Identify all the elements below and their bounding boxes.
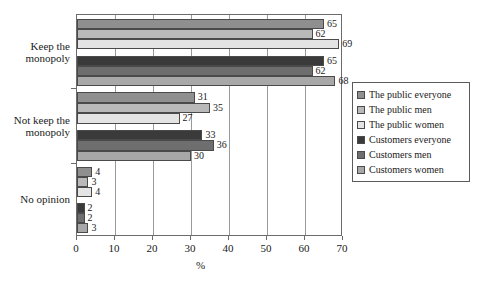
bar-chart: 656269656268313527333630434223 Keep the … — [0, 0, 482, 282]
category-label: Not keep the monopoly — [0, 114, 70, 138]
legend-swatch-icon — [357, 91, 365, 99]
bar-row: 33 — [77, 130, 341, 141]
bar-row: 68 — [77, 76, 341, 86]
bar — [77, 167, 92, 177]
bar — [77, 213, 85, 223]
bar — [77, 66, 313, 76]
bar-value-label: 69 — [340, 39, 352, 49]
bar-row: 36 — [77, 140, 341, 151]
bar-group: 434223 — [77, 164, 341, 236]
bar-value-label: 3 — [89, 223, 96, 233]
bar — [77, 39, 339, 49]
x-tick — [114, 236, 115, 240]
bar-row: 35 — [77, 103, 341, 114]
bar-value-label: 31 — [196, 92, 208, 102]
bar-row: 65 — [77, 56, 341, 66]
bar-row: 62 — [77, 29, 341, 39]
bar — [77, 92, 195, 103]
bar-row: 27 — [77, 113, 341, 124]
x-tick — [342, 236, 343, 240]
bar-value-label: 30 — [192, 151, 204, 161]
category-label: No opinion — [0, 193, 70, 205]
bar — [77, 76, 335, 86]
x-tick — [228, 236, 229, 240]
legend-label: The public women — [369, 119, 444, 130]
legend-label: Customers men — [369, 149, 432, 160]
bar-value-label: 36 — [215, 140, 227, 150]
bar-value-label: 4 — [93, 187, 100, 197]
bar-row: 2 — [77, 203, 341, 213]
bar — [77, 187, 92, 197]
bar — [77, 113, 180, 124]
bar — [77, 130, 202, 141]
legend-swatch-icon — [357, 121, 365, 129]
x-tick-label: 40 — [213, 242, 243, 254]
x-tick — [304, 236, 305, 240]
category-tick — [71, 163, 76, 164]
x-tick — [152, 236, 153, 240]
x-tick — [190, 236, 191, 240]
x-tick-label: 30 — [175, 242, 205, 254]
bar-row: 3 — [77, 177, 341, 187]
legend: The public everyoneThe public menThe pub… — [352, 82, 470, 182]
legend-swatch-icon — [357, 106, 365, 114]
bar — [77, 203, 85, 213]
bar-row: 30 — [77, 151, 341, 162]
bar — [77, 19, 324, 29]
bar-value-label: 33 — [203, 130, 215, 140]
legend-swatch-icon — [357, 151, 365, 159]
bar — [77, 56, 324, 66]
plot-area: 656269656268313527333630434223 — [76, 14, 342, 236]
bar — [77, 29, 313, 39]
x-tick-label: 0 — [61, 242, 91, 254]
bar-value-label: 35 — [211, 103, 223, 113]
category-label: Keep the monopoly — [0, 40, 70, 64]
x-tick-label: 70 — [327, 242, 357, 254]
x-tick — [266, 236, 267, 240]
bar-row: 3 — [77, 223, 341, 233]
bar-row: 31 — [77, 92, 341, 103]
x-tick-label: 20 — [137, 242, 167, 254]
legend-swatch-icon — [357, 166, 365, 174]
legend-item: Customers women — [357, 162, 466, 177]
legend-item: Customers everyone — [357, 132, 466, 147]
legend-item: The public women — [357, 117, 466, 132]
bar — [77, 223, 88, 233]
legend-label: The public everyone — [369, 89, 451, 100]
bar — [77, 151, 191, 162]
legend-swatch-icon — [357, 136, 365, 144]
bar-group: 313527333630 — [77, 89, 341, 164]
x-tick — [76, 236, 77, 240]
bar-value-label: 27 — [181, 113, 193, 123]
bar — [77, 177, 88, 187]
bar-row: 4 — [77, 167, 341, 177]
category-tick — [71, 88, 76, 89]
legend-item: The public everyone — [357, 87, 466, 102]
bar-group: 656269656268 — [77, 16, 341, 89]
bar-value-label: 65 — [325, 19, 337, 29]
legend-item: The public men — [357, 102, 466, 117]
x-axis-title: % — [196, 259, 205, 271]
bar-row: 69 — [77, 39, 341, 49]
bar-row: 2 — [77, 213, 341, 223]
x-tick-label: 10 — [99, 242, 129, 254]
legend-label: The public men — [369, 104, 432, 115]
bar-value-label: 62 — [314, 29, 326, 39]
bar-value-label: 62 — [314, 66, 326, 76]
bar-row: 65 — [77, 19, 341, 29]
bar-value-label: 65 — [325, 56, 337, 66]
x-tick-label: 50 — [251, 242, 281, 254]
bar-row: 62 — [77, 66, 341, 76]
bar-value-label: 68 — [336, 76, 348, 86]
legend-item: Customers men — [357, 147, 466, 162]
legend-label: Customers everyone — [369, 134, 451, 145]
x-tick-label: 60 — [289, 242, 319, 254]
bar-row: 4 — [77, 187, 341, 197]
legend-label: Customers women — [369, 164, 444, 175]
